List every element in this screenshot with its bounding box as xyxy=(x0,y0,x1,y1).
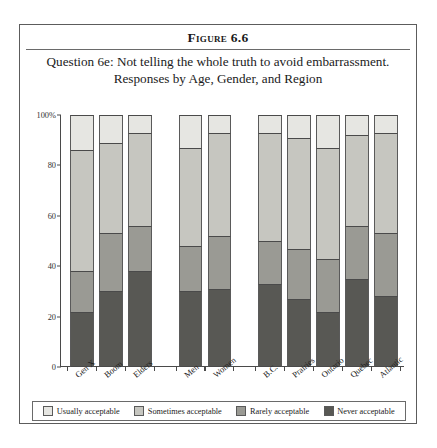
x-tick-mark xyxy=(284,367,285,371)
bar-segment xyxy=(287,138,311,249)
bar-segment xyxy=(128,115,152,133)
bar-segment xyxy=(208,133,232,236)
bar-segment xyxy=(128,226,152,271)
bar-segment xyxy=(258,133,282,241)
bar-segment xyxy=(287,249,311,299)
bar-segment xyxy=(99,233,123,291)
bar-segment xyxy=(258,115,282,133)
bar-segment xyxy=(99,143,123,234)
bar-segment xyxy=(287,115,311,138)
chart-axes: 020406080100% Gen XBoomEldersMenWomenB.C… xyxy=(60,115,404,367)
legend-item: Rarely acceptable xyxy=(236,406,309,416)
bar-segment xyxy=(70,271,94,311)
bar-segment xyxy=(179,246,203,291)
y-tick-label: 60 xyxy=(34,211,56,220)
legend-label: Sometimes acceptable xyxy=(148,407,222,416)
y-tick-label: 40 xyxy=(34,262,56,271)
bar-segment xyxy=(179,148,203,246)
x-tick-mark xyxy=(313,367,314,371)
bar-segment xyxy=(345,135,369,226)
x-tick-mark xyxy=(205,367,206,371)
bar-segment xyxy=(316,259,340,312)
bar-segment xyxy=(128,133,152,226)
caption-line-2: Responses by Age, Gender, and Region xyxy=(26,71,410,88)
y-tick-mark xyxy=(57,266,61,267)
legend-swatch-usually xyxy=(43,406,53,416)
legend-label: Never acceptable xyxy=(337,407,394,416)
bar-segment xyxy=(128,271,152,367)
y-tick-mark xyxy=(57,367,61,368)
chart-bar xyxy=(287,115,311,367)
chart-bar xyxy=(316,115,340,367)
bar-segment xyxy=(258,284,282,367)
x-tick-mark xyxy=(176,367,177,371)
chart-plot-area: 020406080100% Gen XBoomEldersMenWomenB.C… xyxy=(20,109,418,425)
bar-segment xyxy=(208,289,232,367)
bar-segment xyxy=(99,115,123,143)
bar-segment xyxy=(316,148,340,259)
y-tick-mark xyxy=(57,115,61,116)
x-tick-mark xyxy=(255,367,256,371)
legend-label: Rarely acceptable xyxy=(250,407,309,416)
legend-swatch-never xyxy=(324,406,334,416)
chart-bar xyxy=(179,115,203,367)
bar-segment xyxy=(374,233,398,296)
y-tick-mark xyxy=(57,316,61,317)
y-tick-mark xyxy=(57,165,61,166)
bar-segment xyxy=(70,150,94,271)
bar-segment xyxy=(374,133,398,234)
bar-segment xyxy=(345,279,369,367)
bar-segment xyxy=(208,236,232,289)
bar-segment xyxy=(179,115,203,148)
chart-bar xyxy=(128,115,152,367)
figure-number: Figure 6.6 xyxy=(20,30,416,49)
x-tick-mark xyxy=(342,367,343,371)
bar-segment xyxy=(70,115,94,150)
y-tick-label: 80 xyxy=(34,161,56,170)
x-tick-mark xyxy=(233,367,234,371)
bar-segment xyxy=(345,226,369,279)
chart-legend: Usually acceptableSometimes acceptableRa… xyxy=(32,401,406,421)
x-tick-mark xyxy=(154,367,155,371)
figure-frame: Figure 6.6 Question 6e: Not telling the … xyxy=(19,24,417,424)
bar-segment xyxy=(345,115,369,135)
chart-bar xyxy=(208,115,232,367)
bar-segment xyxy=(179,291,203,367)
bar-segment xyxy=(208,115,232,133)
bar-segment xyxy=(316,115,340,148)
x-tick-mark xyxy=(96,367,97,371)
y-tick-label: 100% xyxy=(34,111,56,120)
legend-item: Usually acceptable xyxy=(43,406,119,416)
y-tick-mark xyxy=(57,215,61,216)
caption-line-1: Question 6e: Not telling the whole truth… xyxy=(26,54,410,71)
chart-bar xyxy=(345,115,369,367)
legend-swatch-rarely xyxy=(236,406,246,416)
legend-swatch-sometimes xyxy=(134,406,144,416)
bar-segment xyxy=(99,291,123,367)
chart-bar xyxy=(258,115,282,367)
chart-bar xyxy=(70,115,94,367)
legend-item: Sometimes acceptable xyxy=(134,406,221,416)
chart-bar xyxy=(99,115,123,367)
figure-header: Figure 6.6 Question 6e: Not telling the … xyxy=(20,25,416,87)
x-tick-mark xyxy=(371,367,372,371)
legend-label: Usually acceptable xyxy=(57,407,120,416)
y-axis-line xyxy=(60,115,61,367)
chart-bar xyxy=(374,115,398,367)
y-tick-label: 0 xyxy=(34,363,56,372)
bar-segment xyxy=(374,115,398,133)
legend-item: Never acceptable xyxy=(324,406,395,416)
x-tick-mark xyxy=(125,367,126,371)
x-tick-mark xyxy=(400,367,401,371)
x-tick-mark xyxy=(67,367,68,371)
y-tick-label: 20 xyxy=(34,312,56,321)
figure-caption: Question 6e: Not telling the whole truth… xyxy=(20,50,416,87)
bar-segment xyxy=(258,241,282,284)
